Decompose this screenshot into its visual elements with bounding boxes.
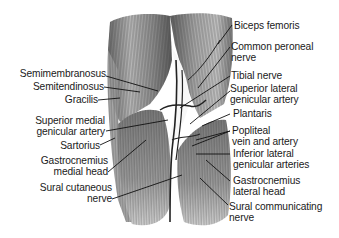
label-biceps-femoris: Biceps femoris: [234, 20, 299, 31]
label-common-peroneal-nerve: Common peroneal nerve: [231, 41, 313, 63]
label-gastrocnemius-lateral-head: Gastrocnemius lateral head: [233, 175, 300, 197]
gastrocnemius-lateral-head-muscle: [177, 120, 231, 226]
label-superior-lateral-genicular-artery: Superior lateral genicular artery: [230, 83, 299, 105]
label-tibial-nerve: Tibial nerve: [231, 70, 282, 81]
label-sural-communicating-nerve: Sural communicating nerve: [229, 201, 322, 223]
label-semitendinosus: Semitendinosus: [33, 81, 104, 92]
label-gracilis: Gracilis: [65, 94, 98, 105]
label-gastrocnemius-medial-head: Gastrocnemius medial head: [41, 155, 108, 177]
label-sural-cutaneous-nerve: Sural cutaneous nerve: [40, 182, 112, 204]
label-semimembranosus: Semimembranosus: [20, 68, 106, 79]
label-popliteal-vein-and-artery: Popliteal vein and artery: [232, 125, 298, 147]
label-plantaris: Plantaris: [233, 108, 272, 119]
label-superior-medial-genicular-artery: Superior medial genicular artery: [35, 115, 105, 137]
label-sartorius: Sartorius: [60, 140, 100, 151]
knee-anatomy-diagram: Semimembranosus Semitendinosus Gracilis …: [0, 0, 339, 238]
label-inferior-lateral-genicular-arteries: Inferior lateral genicular arteries: [233, 148, 309, 170]
